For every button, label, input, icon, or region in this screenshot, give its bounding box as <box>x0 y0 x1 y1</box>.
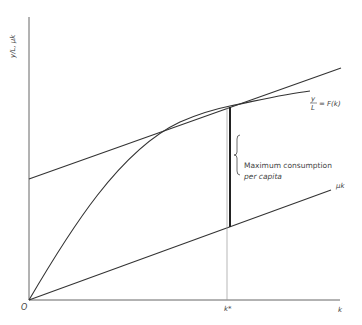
mu-k-line <box>29 190 331 300</box>
origin-label: O <box>21 303 27 312</box>
curve-label-den: L <box>311 104 315 112</box>
x-axis-label: k <box>338 306 343 314</box>
annotation-line1: Maximum consumption <box>244 161 332 170</box>
production-curve <box>29 91 310 300</box>
golden-rule-diagram: y/L, μk Maximum consumption per capita y… <box>0 0 362 325</box>
mu-k-label: μk <box>335 182 345 190</box>
svg-text:y/L, μk: y/L, μk <box>9 34 17 59</box>
brace <box>234 135 240 175</box>
annotation-line2: per capita <box>243 172 282 181</box>
curve-label-rest: = F(k) <box>319 100 341 108</box>
y-axis-label: y/L, μk <box>9 34 17 59</box>
curve-label-num: y <box>310 95 316 103</box>
kstar-label: k* <box>224 305 232 313</box>
